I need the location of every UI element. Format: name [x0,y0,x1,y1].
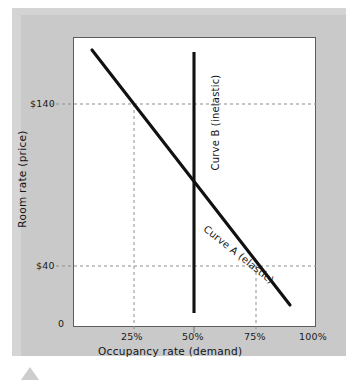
curve-b-annotation: Curve B (inelastic) [210,58,221,188]
figure-root: $140 $40 0 25% 50% 75% 100% Occupancy ra… [0,0,354,386]
x-tick-label-25: 25% [121,331,143,342]
scan-artifact-triangle-icon [21,367,39,380]
chart-canvas [0,0,354,386]
x-tick-label-75: 75% [244,331,266,342]
y-tick-label-0: 0 [58,318,64,329]
x-tick-label-50: 50% [182,331,204,342]
y-tick-label-40: $40 [36,260,55,271]
x-tick-label-100: 100% [299,331,327,342]
x-axis-title: Occupancy rate (demand) [98,345,242,357]
y-tick-label-140: $140 [30,98,55,109]
y-axis-title: Room rate (price) [16,119,28,239]
